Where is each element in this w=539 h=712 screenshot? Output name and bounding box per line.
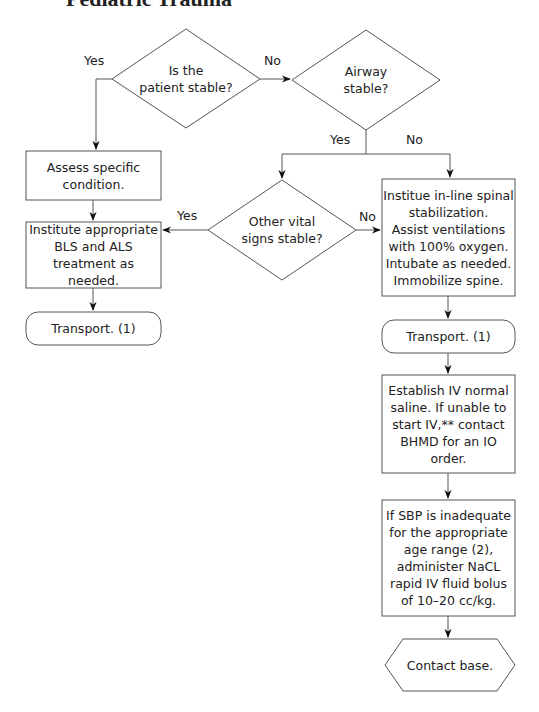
transport-left-text: Transport. (1) (26, 312, 161, 345)
institute-bls-als-text: Institute appropriate BLS and ALS treatm… (26, 222, 161, 288)
edge-patient-yes (96, 79, 112, 149)
spinal-stabilization-text: Institue in-line spinal stabilization. A… (382, 179, 515, 296)
edge-label-patient-yes: Yes (84, 52, 104, 69)
edge-label-vitals-yes: Yes (177, 207, 197, 224)
edge-label-vitals-no: No (359, 208, 376, 225)
edge-label-airway-yes: Yes (330, 131, 350, 148)
airway-stable-text: Airway stable? (310, 56, 422, 104)
transport-right-text: Transport. (1) (382, 320, 515, 353)
edge-label-airway-no: No (406, 131, 423, 148)
contact-base-text: Contact base. (385, 639, 515, 691)
sbp-bolus-text: If SBP is inadequate for the appropriate… (382, 500, 515, 616)
patient-stable-text: Is the patient stable? (130, 55, 242, 103)
other-vitals-text: Other vital signs stable? (226, 206, 338, 254)
edge-label-patient-no: No (264, 52, 281, 69)
assess-condition-text: Assess specific condition. (26, 151, 161, 200)
establish-iv-text: Establish IV normal saline. If unable to… (382, 375, 515, 473)
